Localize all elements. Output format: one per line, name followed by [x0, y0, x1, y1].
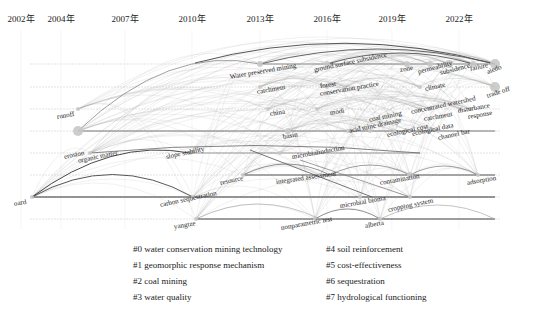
year-label: 2007年 [112, 12, 139, 25]
year-label: 2002年 [8, 12, 35, 25]
year-label: 2004年 [48, 12, 75, 25]
legend-item-cluster-6: #6 sequestration [326, 276, 426, 287]
legend-item-cluster-4: #4 soil reinforcement [326, 244, 426, 255]
legend-item-cluster-5: #5 cost-effectiveness [326, 260, 426, 271]
timeline-chart: 2002年2004年2007年2010年2013年2016年2019年2022年… [0, 0, 534, 313]
legend-item-cluster-7: #7 hydrological functioning [326, 292, 426, 303]
legend-item-cluster-2: #2 coal mining [133, 276, 282, 287]
year-label: 2022年 [446, 12, 473, 25]
legend-item-cluster-3: #3 water quality [133, 292, 282, 303]
timeline-network-plot [0, 0, 534, 240]
year-label: 2013年 [247, 12, 274, 25]
legend-item-cluster-1: #1 geomorphic response mechanism [133, 260, 282, 271]
year-label: 2016年 [314, 12, 341, 25]
year-label: 2010年 [179, 12, 206, 25]
legend-right: #4 soil reinforcement #5 cost-effectiven… [326, 244, 426, 303]
legend-item-cluster-0: #0 water conservation mining technology [133, 244, 282, 255]
legend-left: #0 water conservation mining technology … [133, 244, 282, 303]
year-label: 2019年 [379, 12, 406, 25]
